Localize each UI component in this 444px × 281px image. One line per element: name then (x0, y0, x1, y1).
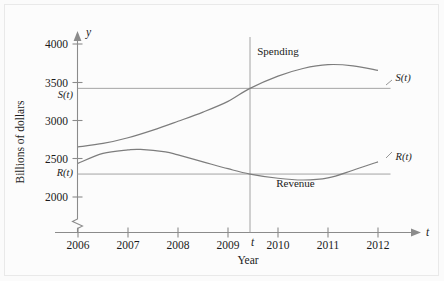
x-axis-arrowhead (411, 229, 421, 237)
curve-spending (78, 65, 378, 147)
reference-label-rt: R(t) (56, 167, 74, 179)
y-ticklabel-3500: 3500 (45, 77, 68, 89)
reference-label-st: S(t) (58, 89, 74, 101)
y-ticklabel-2500: 2500 (45, 153, 68, 165)
y-axis-group: y 4000 3500 3000 2500 2000 Billions of d… (14, 26, 92, 232)
annotation-rt-end: R(t) (395, 151, 413, 163)
curves-group (78, 65, 378, 181)
x-axis-name: t (426, 226, 430, 238)
x-ticklabel-2008: 2008 (167, 239, 190, 251)
curve-revenue (78, 149, 378, 180)
x-ticklabel-2009: 2009 (217, 239, 240, 251)
line-chart: y 4000 3500 3000 2500 2000 Billions of d… (0, 0, 444, 281)
x-ticklabel-2007: 2007 (117, 239, 140, 251)
annotation-st-end: S(t) (396, 72, 412, 84)
x-axis-title: Year (237, 254, 258, 266)
x-ticklabel-2012: 2012 (367, 239, 390, 251)
annotation-revenue: Revenue (276, 177, 315, 189)
figure-container: y 4000 3500 3000 2500 2000 Billions of d… (0, 0, 444, 281)
y-ticklabel-4000: 4000 (45, 38, 68, 50)
y-ticklabel-2000: 2000 (45, 191, 68, 203)
y-axis-name: y (85, 26, 92, 39)
reference-label-t: t (251, 236, 255, 248)
x-ticklabel-2006: 2006 (67, 239, 90, 251)
x-ticklabel-2011: 2011 (317, 239, 340, 251)
x-axis-group: t 2006 2007 2008 2009 2010 2011 2012 Yea… (55, 226, 430, 266)
y-ticklabel-3000: 3000 (45, 115, 68, 127)
annotations-group: Spending Revenue S(t) R(t) (257, 45, 412, 189)
leader-line-st (386, 80, 392, 85)
y-axis-title: Billions of dollars (14, 100, 26, 184)
annotation-spending: Spending (257, 45, 299, 57)
leader-line-rt (386, 152, 392, 158)
y-axis-arrowhead (74, 31, 82, 41)
x-ticklabel-2010: 2010 (267, 239, 290, 251)
